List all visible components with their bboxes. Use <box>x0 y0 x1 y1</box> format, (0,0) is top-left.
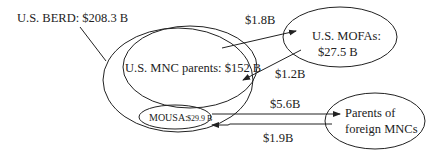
foreign-parents-label-line2: foreign MNCs <box>345 122 418 136</box>
flow-label-parents-to-mofas: $1.8B <box>245 13 275 27</box>
berd-label: U.S. BERD: $208.3 B <box>17 11 128 25</box>
foreign-parents-ellipse <box>325 93 425 149</box>
foreign-parents-label-line1: Parents of <box>345 106 396 120</box>
flow-arrow-foreign-to-mousa <box>212 124 332 125</box>
mofas-label-line2: $27.5 B <box>318 45 358 59</box>
flow-label-mousa-to-foreign: $5.6B <box>270 97 300 111</box>
mousa-label-name: MOUSA: <box>149 112 188 123</box>
flow-label-mofas-to-parents: $1.2B <box>275 67 305 81</box>
berd-leader-line <box>80 27 106 61</box>
flow-label-foreign-to-mousa: $1.9B <box>263 131 293 145</box>
mousa-label-value: $29.9 B <box>187 114 212 123</box>
mnc-parents-label: U.S. MNC parents: $152 B <box>125 61 261 75</box>
mofas-label-line1: U.S. MOFAs: <box>312 29 381 43</box>
rd-flow-diagram: U.S. BERD: $208.3 B U.S. MNC parents: $1… <box>0 0 447 150</box>
